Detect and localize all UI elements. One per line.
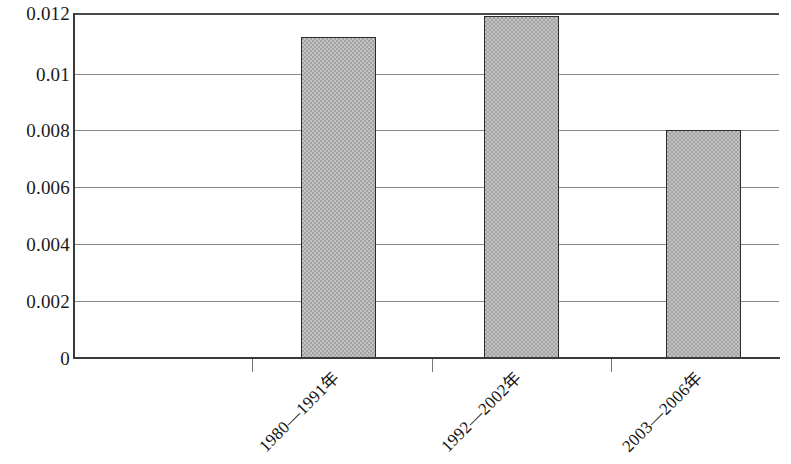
- gridline-0.012: [73, 13, 779, 15]
- bar-2003-2006: [666, 130, 741, 358]
- y-axis-tick-label: 0.002: [26, 292, 70, 311]
- y-axis-tick-label: 0: [60, 349, 70, 368]
- y-axis-tick-label: 0.006: [26, 178, 70, 197]
- x-axis-category-label-1: 1980—1991年: [256, 369, 343, 456]
- bar-1992-2002: [484, 16, 559, 358]
- y-axis-line: [73, 13, 75, 359]
- y-axis-tick-label: 0.01: [36, 65, 70, 84]
- x-axis-category-label-2: 1992—2002年: [438, 369, 525, 456]
- x-axis-category-label-3: 2003—2006年: [619, 369, 706, 456]
- bar-chart: 0.012 0.01 0.008 0.006 0.004 0.002 0 198…: [0, 0, 791, 464]
- x-axis-tick-mark: [432, 359, 433, 372]
- y-axis-tick-label: 0.012: [26, 4, 70, 23]
- x-axis-line: [73, 357, 780, 359]
- plot-area: [73, 13, 779, 358]
- y-axis-tick-label: 0.004: [26, 235, 70, 254]
- bar-1980-1991: [301, 37, 376, 358]
- x-axis-tick-mark: [611, 359, 612, 372]
- y-axis-tick-label: 0.008: [26, 121, 70, 140]
- gridline-0.01: [73, 74, 779, 75]
- x-axis-tick-mark: [252, 359, 253, 372]
